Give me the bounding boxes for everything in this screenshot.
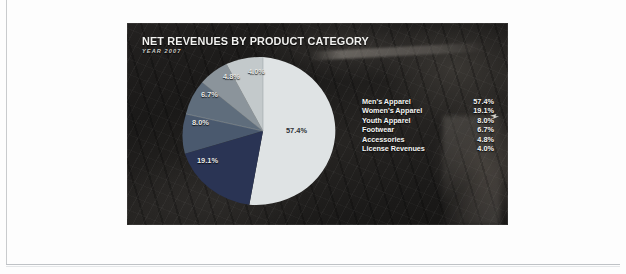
legend-label: Footwear [362,125,394,134]
legend-row: Footwear 6.7% [362,125,494,134]
page-canvas: NET REVENUES BY PRODUCT CATEGORY YEAR 20… [0,0,626,274]
legend-row: Men's Apparel 57.4% [362,97,494,106]
legend-row: Accessories 4.8% [362,135,494,144]
legend-value: 19.1% [473,106,494,115]
pie-slices [182,57,335,205]
pie-chart-svg [179,52,347,210]
legend-label: License Revenues [362,144,425,153]
legend-value: 4.8% [477,135,494,144]
legend-row: License Revenues 4.0% [362,144,494,153]
chart-legend: Men's Apparel 57.4% Women's Apparel 19.1… [362,97,494,153]
page-left-rule [6,0,7,265]
pie-chart: 57.4% 19.1% 8.0% 6.7% 4.8% 4.0% [179,52,347,210]
legend-value: 4.0% [477,144,494,153]
page-bottom-rule [6,264,620,265]
legend-value: 6.7% [477,125,494,134]
legend-row: Women's Apparel 19.1% [362,106,494,115]
page-bottom-rule-secondary [6,266,620,267]
legend-row: Youth Apparel 8.0% [362,116,494,125]
legend-label: Accessories [362,135,404,144]
legend-value: 8.0% [477,116,494,125]
figure-panel: NET REVENUES BY PRODUCT CATEGORY YEAR 20… [127,23,508,225]
legend-value: 57.4% [473,97,494,106]
legend-label: Women's Apparel [362,106,422,115]
page-title: NET REVENUES BY PRODUCT CATEGORY [142,35,369,47]
legend-label: Youth Apparel [362,116,410,125]
legend-label: Men's Apparel [362,97,411,106]
